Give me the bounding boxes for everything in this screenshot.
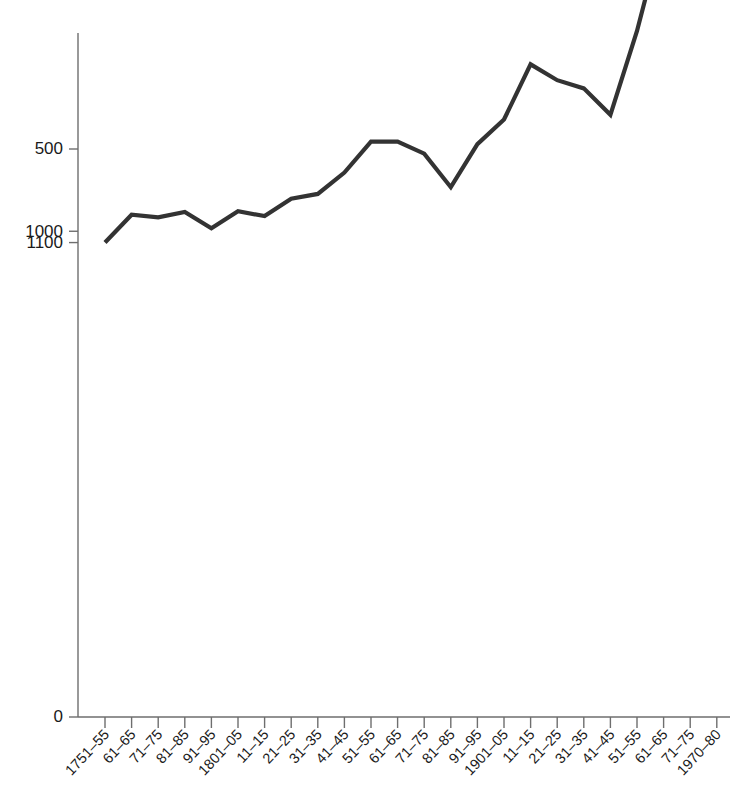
y-tick-label: 1000 [25,222,63,241]
log-line-chart: 11001000500100501050 1751–5561–6571–7581… [0,0,730,802]
y-tick-label: 500 [35,139,63,158]
x-tick-labels: 1751–5561–6571–7581–8591–951801–0511–152… [62,726,724,778]
data-series [105,0,717,243]
y-axis: 11001000500100501050 [25,0,78,726]
chart-canvas: 11001000500100501050 1751–5561–6571–7581… [0,0,730,802]
y-tick-label: 0 [54,707,63,726]
series-line [105,0,717,243]
